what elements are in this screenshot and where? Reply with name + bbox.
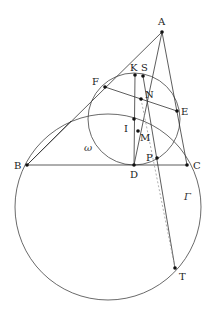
label-k: K [130,62,138,73]
labels-layer: ABCDEFKSNIMPTωΓ [14,16,201,282]
label-omega: ω [84,142,92,153]
points-layer [25,30,189,270]
circle-Gamma [15,114,201,300]
label-a: A [157,16,166,27]
label-e: E [181,106,188,117]
segment-b-n [27,121,71,165]
label-i: I [124,123,128,134]
point-s [141,74,145,78]
segment-a-c [162,32,187,165]
label-gamma: Γ [183,191,192,202]
point-i [132,117,136,121]
point-k [133,73,137,77]
point-t [173,266,177,270]
point-c [185,163,189,167]
label-c: C [193,160,201,171]
segment-n-t [141,99,175,268]
point-d [132,163,136,167]
label-s: S [141,62,148,73]
point-n [139,97,143,101]
label-f: F [92,76,99,87]
geometry-diagram: ABCDEFKSNIMPTωΓ [0,0,213,315]
label-p: P [146,152,153,163]
circles-layer [15,73,201,300]
label-t: T [179,271,186,282]
point-f [103,85,107,89]
diagram-svg: ABCDEFKSNIMPTωΓ [0,0,213,315]
point-e [175,109,179,113]
label-n: N [145,89,154,100]
label-m: M [140,132,150,143]
point-b [25,163,29,167]
label-d: D [130,169,138,180]
label-b: B [14,160,21,171]
point-a [160,30,164,34]
point-p [155,156,159,160]
segments-layer [27,32,187,268]
